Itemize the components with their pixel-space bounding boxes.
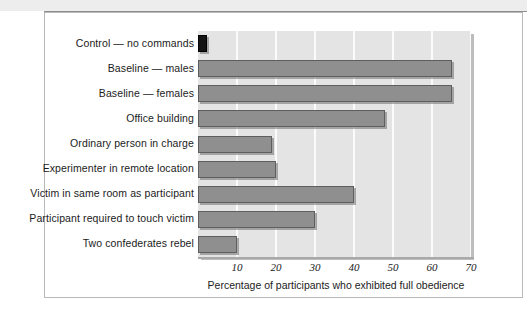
category-label-2: Baseline — females [0,87,194,99]
bar-6[interactable] [198,186,354,203]
x-tick-label-40: 40 [339,261,369,273]
figure-frame: Percentage of participants who exhibited… [44,12,523,298]
category-label-7: Participant required to touch victim [0,212,194,224]
bar-8[interactable] [198,236,237,253]
bar-4[interactable] [198,136,272,153]
bar-7[interactable] [198,211,315,228]
x-tick-label-70: 70 [456,261,486,273]
x-axis-title: Percentage of participants who exhibited… [198,279,474,291]
plot-area [198,31,471,257]
bar-0[interactable] [198,35,207,52]
x-tick-label-30: 30 [300,261,330,273]
x-axis-line [198,257,474,259]
category-label-0: Control — no commands [0,37,194,49]
bar-chart: Percentage of participants who exhibited… [45,13,524,299]
category-label-8: Two confederates rebel [0,237,194,249]
x-tick-label-10: 10 [222,261,252,273]
x-tick-label-20: 20 [261,261,291,273]
category-label-3: Office building [0,112,194,124]
bar-2[interactable] [198,85,452,102]
bar-3[interactable] [198,110,385,127]
bar-1[interactable] [198,60,452,77]
x-tick-label-60: 60 [417,261,447,273]
category-label-1: Baseline — males [0,62,194,74]
x-tick-label-50: 50 [378,261,408,273]
category-label-4: Ordinary person in charge [0,137,194,149]
category-label-6: Victim in same room as participant [0,187,194,199]
category-label-5: Experimenter in remote location [0,162,194,174]
page-top-band [0,0,527,11]
bar-5[interactable] [198,161,276,178]
gridline-70 [470,31,471,257]
page-root: Percentage of participants who exhibited… [0,0,527,311]
